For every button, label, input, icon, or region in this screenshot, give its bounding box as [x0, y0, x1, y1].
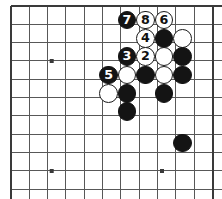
stone-black[interactable] — [155, 29, 174, 48]
stone-black[interactable] — [155, 84, 174, 103]
move-number-label: 6 — [156, 12, 173, 29]
stone-black-move-7[interactable]: 7 — [118, 11, 137, 30]
move-number-label: 8 — [137, 12, 154, 29]
move-number-label: 5 — [100, 67, 117, 84]
move-number-label: 7 — [119, 12, 136, 29]
star-point — [50, 169, 54, 173]
stone-white-move-8[interactable]: 8 — [136, 11, 155, 30]
move-number-label: 3 — [119, 48, 136, 65]
stone-black-move-3[interactable]: 3 — [118, 47, 137, 66]
stone-white[interactable] — [155, 47, 174, 66]
move-number-label: 4 — [137, 30, 154, 47]
star-point — [50, 59, 54, 63]
stone-white-move-6[interactable]: 6 — [155, 11, 174, 30]
stone-black[interactable] — [118, 84, 137, 103]
stone-white[interactable] — [99, 84, 118, 103]
stone-black[interactable] — [173, 134, 192, 153]
stone-white-move-2[interactable]: 2 — [136, 47, 155, 66]
stone-white[interactable] — [173, 29, 192, 48]
go-board-diagram: 7864325 — [0, 0, 222, 199]
stone-black[interactable] — [118, 102, 137, 121]
stone-black[interactable] — [136, 66, 155, 85]
stone-white-move-4[interactable]: 4 — [136, 29, 155, 48]
stone-black-move-5[interactable]: 5 — [99, 66, 118, 85]
move-number-label: 2 — [137, 48, 154, 65]
stone-black[interactable] — [173, 66, 192, 85]
stone-black[interactable] — [173, 47, 192, 66]
star-point — [160, 169, 164, 173]
